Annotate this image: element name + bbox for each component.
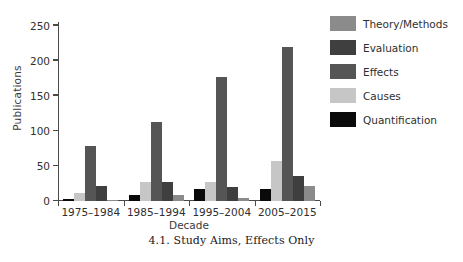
legend-item[interactable]: Causes bbox=[330, 88, 448, 103]
plot-area: 050100150200250 1975–19841985–19941995–2… bbox=[58, 22, 320, 201]
legend-swatch bbox=[330, 88, 356, 103]
x-tick-label: 2005–2015 bbox=[258, 206, 317, 218]
y-tick-mark bbox=[53, 130, 58, 131]
figure: Publications 050100150200250 1975–198419… bbox=[0, 0, 463, 262]
bar-group: 1985–1994 bbox=[129, 22, 184, 201]
bar bbox=[216, 77, 227, 201]
y-tick-label: 100 bbox=[30, 125, 50, 137]
x-tick-label: 1975–1984 bbox=[61, 206, 120, 218]
bar bbox=[96, 186, 107, 201]
bar-group: 1975–1984 bbox=[63, 22, 118, 201]
legend-item[interactable]: Effects bbox=[330, 64, 448, 79]
y-tick-label: 150 bbox=[30, 90, 50, 102]
bar bbox=[129, 195, 140, 201]
y-tick-label: 0 bbox=[43, 195, 50, 207]
bar bbox=[238, 198, 249, 201]
bar-group: 1995–2004 bbox=[194, 22, 249, 201]
y-axis-title: Publications bbox=[11, 50, 23, 146]
legend-item[interactable]: Evaluation bbox=[330, 40, 448, 55]
x-tick-mark bbox=[189, 201, 190, 206]
bar bbox=[282, 47, 293, 201]
y-tick-mark bbox=[53, 94, 58, 95]
x-tick-mark bbox=[255, 201, 256, 206]
bar bbox=[85, 146, 96, 201]
bar bbox=[260, 189, 271, 201]
legend-swatch bbox=[330, 112, 356, 127]
bar bbox=[140, 182, 151, 201]
x-tick-mark bbox=[320, 201, 321, 206]
bar bbox=[74, 193, 85, 201]
y-tick-label: 50 bbox=[37, 160, 50, 172]
legend-label: Evaluation bbox=[363, 42, 418, 54]
bar bbox=[63, 199, 74, 201]
x-tick-label: 1985–1994 bbox=[127, 206, 186, 218]
bar bbox=[194, 189, 205, 201]
y-tick-mark bbox=[53, 59, 58, 60]
y-axis-line bbox=[58, 22, 59, 201]
x-tick-label: 1995–2004 bbox=[192, 206, 251, 218]
bar bbox=[173, 195, 184, 201]
legend-item[interactable]: Quantification bbox=[330, 112, 448, 127]
legend-swatch bbox=[330, 40, 356, 55]
bar bbox=[151, 122, 162, 201]
figure-caption: 4.1. Study Aims, Effects Only bbox=[0, 234, 463, 247]
legend-label: Effects bbox=[363, 66, 399, 78]
bar bbox=[162, 182, 173, 201]
bar bbox=[293, 176, 304, 201]
legend-swatch bbox=[330, 16, 356, 31]
x-tick-mark bbox=[58, 201, 59, 206]
bar bbox=[271, 161, 282, 201]
legend: Theory/MethodsEvaluationEffectsCausesQua… bbox=[330, 16, 448, 127]
bar bbox=[107, 200, 118, 202]
legend-item[interactable]: Theory/Methods bbox=[330, 16, 448, 31]
legend-swatch bbox=[330, 64, 356, 79]
legend-label: Causes bbox=[363, 90, 401, 102]
x-tick-mark bbox=[124, 201, 125, 206]
x-axis-title: Decade bbox=[58, 219, 320, 231]
y-tick-label: 200 bbox=[30, 55, 50, 67]
y-tick-label: 250 bbox=[30, 20, 50, 32]
bar bbox=[304, 186, 315, 201]
y-tick-mark bbox=[53, 165, 58, 166]
y-tick-mark bbox=[53, 24, 58, 25]
legend-label: Theory/Methods bbox=[363, 18, 448, 30]
legend-label: Quantification bbox=[363, 114, 437, 126]
bar bbox=[205, 182, 216, 201]
bar-group: 2005–2015 bbox=[260, 22, 315, 201]
bar bbox=[227, 187, 238, 201]
